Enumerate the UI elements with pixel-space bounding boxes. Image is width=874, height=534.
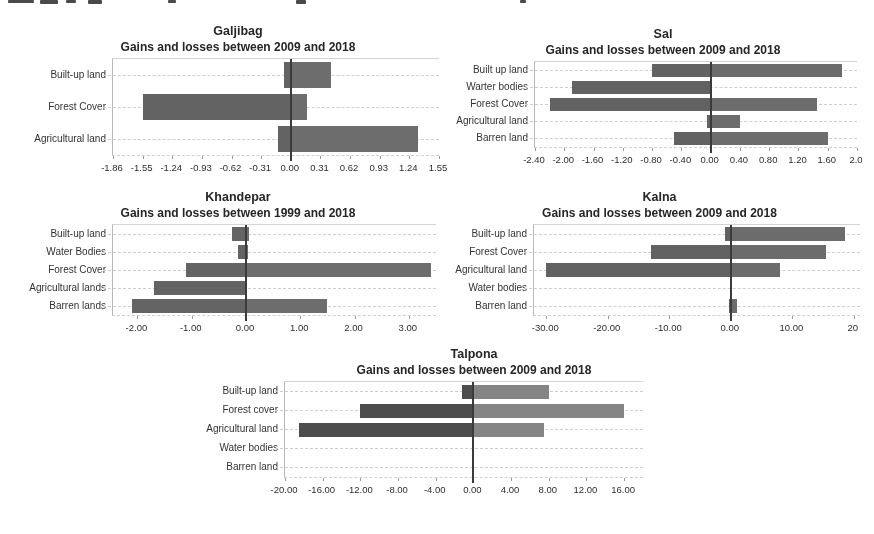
x-tick-label: -1.00 <box>180 322 202 333</box>
bar-loss <box>651 245 731 259</box>
x-tick-mark <box>586 478 587 481</box>
x-tick-mark <box>202 156 203 159</box>
category-label: Built-up land <box>172 381 284 400</box>
x-tick-mark <box>300 316 301 319</box>
chart-body: Built-up landForest CoverAgricultural la… <box>445 224 874 316</box>
chart-body: Built-up landWater BodiesForest CoverAgr… <box>18 224 458 316</box>
category-labels-column: Built-up landWater BodiesForest CoverAgr… <box>18 224 112 316</box>
x-tick-mark <box>409 156 410 159</box>
chart-title: Talpona <box>284 347 664 363</box>
chart-titles: SalGains and losses between 2009 and 201… <box>452 27 874 57</box>
chart-title: Khandepar <box>18 190 458 206</box>
chart-subtitle: Gains and losses between 2009 and 2018 <box>445 206 874 220</box>
category-label: Agricultural land <box>18 122 112 154</box>
bar-gain <box>473 423 544 437</box>
chart-subtitle: Gains and losses between 2009 and 2018 <box>18 40 458 54</box>
bar-gain <box>291 62 331 88</box>
chart-subtitle: Gains and losses between 1999 and 2018 <box>18 206 458 220</box>
x-tick-mark <box>769 148 770 151</box>
x-tick-label: 0.62 <box>340 162 359 173</box>
chart-talpona: TalponaGains and losses between 2009 and… <box>172 347 664 497</box>
zero-line <box>710 62 712 153</box>
x-tick-label: 0.80 <box>759 154 778 165</box>
category-label: Agricultural land <box>452 112 534 129</box>
x-tick-mark <box>857 148 858 151</box>
category-gridline <box>524 306 860 307</box>
cropped-text-remnant <box>66 0 76 3</box>
x-tick-label: -0.40 <box>670 154 692 165</box>
x-tick-label: 0.00 <box>721 322 740 333</box>
bar-loss <box>143 94 291 120</box>
category-label: Barren land <box>452 129 534 146</box>
x-tick-label: 1.55 <box>429 162 448 173</box>
x-tick-mark <box>564 148 565 151</box>
x-tick-label: -8.00 <box>386 484 408 495</box>
category-label: Forest cover <box>172 400 284 419</box>
chart-body: Built-up landForest CoverAgricultural la… <box>18 58 458 156</box>
x-axis: -30.00-20.00-10.000.0010.0020 <box>533 321 859 335</box>
bar-loss <box>232 227 246 241</box>
zero-line <box>730 225 732 321</box>
x-tick-label: 0.00 <box>463 484 482 495</box>
category-label: Agricultural land <box>445 260 533 278</box>
x-tick-label: 0.00 <box>281 162 300 173</box>
x-tick-label: 3.00 <box>399 322 418 333</box>
chart-subtitle: Gains and losses between 2009 and 2018 <box>452 43 874 57</box>
x-tick-mark <box>323 478 324 481</box>
chart-sal: SalGains and losses between 2009 and 201… <box>452 27 874 167</box>
x-tick-label: -30.00 <box>532 322 559 333</box>
x-tick-label: 2.0 <box>849 154 862 165</box>
category-gridline <box>524 288 860 289</box>
x-tick-mark <box>172 156 173 159</box>
chart-khandepar: KhandeparGains and losses between 1999 a… <box>18 190 458 335</box>
category-gridline <box>275 467 643 468</box>
category-label: Forest Cover <box>18 260 112 278</box>
x-tick-mark <box>798 148 799 151</box>
bar-gain <box>246 263 431 277</box>
x-tick-label: 4.00 <box>501 484 520 495</box>
x-tick-mark <box>854 316 855 319</box>
chart-body: Built up landWarter bodiesForest CoverAg… <box>452 61 874 148</box>
x-tick-label: 10.00 <box>779 322 803 333</box>
x-tick-mark <box>360 478 361 481</box>
x-axis: -2.00-1.000.001.002.003.00 <box>112 321 435 335</box>
category-label: Water Bodies <box>18 242 112 260</box>
category-label: Agricultural land <box>172 419 284 438</box>
category-gridline <box>525 121 857 122</box>
x-axis: -2.40-2.00-1.60-1.20-0.80-0.400.000.400.… <box>534 153 856 167</box>
plot-area <box>534 61 857 148</box>
chart-title: Kalna <box>445 190 874 206</box>
x-tick-mark <box>594 148 595 151</box>
x-tick-mark <box>350 156 351 159</box>
x-axis: -20.00-16.00-12.00-8.00-4.000.004.008.00… <box>284 483 642 497</box>
x-tick-mark <box>792 316 793 319</box>
chart-body: Built-up landForest coverAgricultural la… <box>172 381 664 478</box>
chart-subtitle: Gains and losses between 2009 and 2018 <box>284 363 664 377</box>
bar-gain <box>731 263 780 277</box>
x-tick-mark <box>137 316 138 319</box>
category-label: Built up land <box>452 61 534 78</box>
bar-gain <box>246 299 327 313</box>
x-tick-mark <box>398 478 399 481</box>
x-axis: -1.86-1.55-1.24-0.93-0.62-0.310.000.310.… <box>112 161 438 175</box>
bar-loss <box>360 404 473 418</box>
x-tick-label: 0.31 <box>310 162 329 173</box>
x-tick-mark <box>192 316 193 319</box>
x-tick-mark <box>232 156 233 159</box>
category-labels-column: Built-up landForest coverAgricultural la… <box>172 381 284 478</box>
x-tick-label: 20 <box>848 322 859 333</box>
bar-loss <box>154 281 246 295</box>
bar-loss <box>652 64 711 77</box>
category-labels-column: Built-up landForest CoverAgricultural la… <box>18 58 112 156</box>
zero-line <box>472 382 474 483</box>
bar-loss <box>299 423 473 437</box>
category-label: Forest Cover <box>18 90 112 122</box>
bar-gain <box>473 404 624 418</box>
x-tick-mark <box>285 478 286 481</box>
category-label: Built-up land <box>18 58 112 90</box>
category-gridline <box>103 252 436 253</box>
category-label: Built-up land <box>18 224 112 242</box>
bar-gain <box>711 115 740 128</box>
category-label: Barren land <box>172 457 284 476</box>
x-tick-mark <box>535 148 536 151</box>
